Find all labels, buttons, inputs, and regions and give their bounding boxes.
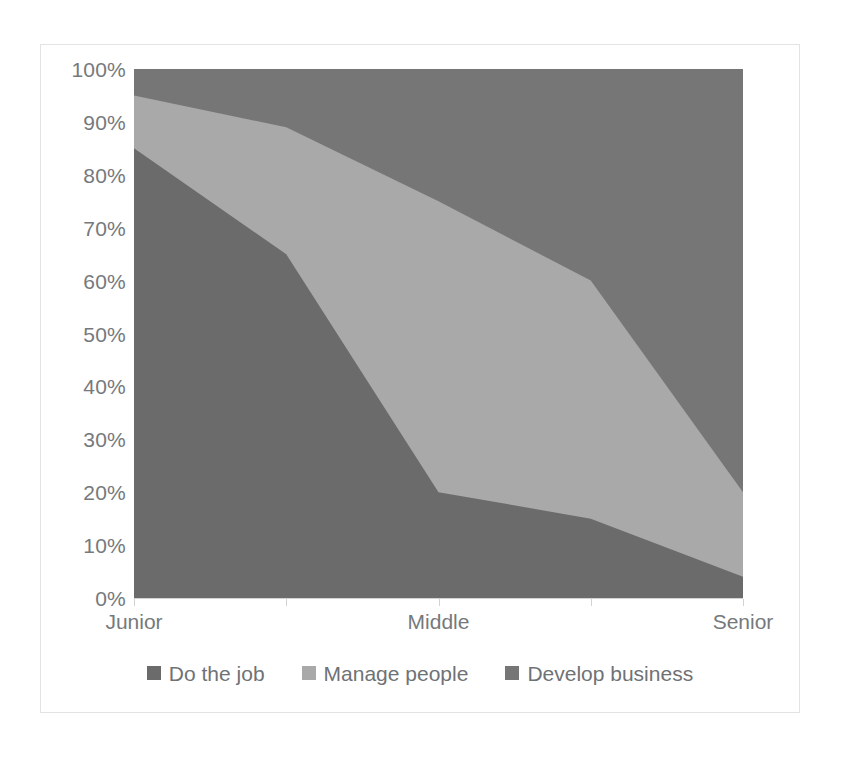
legend-label: Manage people bbox=[324, 663, 469, 684]
legend-item[interactable]: Manage people bbox=[302, 663, 469, 684]
legend-swatch-icon bbox=[505, 666, 519, 680]
y-tick-label: 60% bbox=[41, 271, 126, 292]
legend-item[interactable]: Develop business bbox=[505, 663, 693, 684]
legend-swatch-icon bbox=[302, 666, 316, 680]
legend-label: Develop business bbox=[527, 663, 693, 684]
y-tick-label: 20% bbox=[41, 482, 126, 503]
legend-swatch-icon bbox=[147, 666, 161, 680]
x-tick bbox=[134, 599, 135, 606]
chart-legend: Do the jobManage peopleDevelop business bbox=[41, 657, 799, 689]
legend-label: Do the job bbox=[169, 663, 265, 684]
x-tick-label: Senior bbox=[713, 611, 774, 632]
stacked-area-plot bbox=[134, 69, 743, 598]
y-tick-label: 90% bbox=[41, 112, 126, 133]
y-tick-label: 50% bbox=[41, 324, 126, 345]
y-tick-label: 70% bbox=[41, 218, 126, 239]
x-axis: JuniorMiddleSenior bbox=[41, 611, 799, 645]
y-tick-label: 10% bbox=[41, 535, 126, 556]
y-tick-label: 0% bbox=[41, 588, 126, 609]
x-tick-label: Middle bbox=[408, 611, 470, 632]
plot-area bbox=[134, 69, 743, 598]
x-tick bbox=[439, 599, 440, 606]
chart-frame: 100%90%80%70%60%50%40%30%20%10%0% Junior… bbox=[40, 44, 800, 713]
y-tick-label: 30% bbox=[41, 429, 126, 450]
x-tick bbox=[286, 599, 287, 606]
x-tick-label: Junior bbox=[105, 611, 162, 632]
x-tick bbox=[591, 599, 592, 606]
x-tick bbox=[743, 599, 744, 606]
y-tick-label: 80% bbox=[41, 165, 126, 186]
y-axis: 100%90%80%70%60%50%40%30%20%10%0% bbox=[41, 45, 126, 622]
y-tick-label: 100% bbox=[41, 59, 126, 80]
y-tick-label: 40% bbox=[41, 376, 126, 397]
legend-item[interactable]: Do the job bbox=[147, 663, 265, 684]
